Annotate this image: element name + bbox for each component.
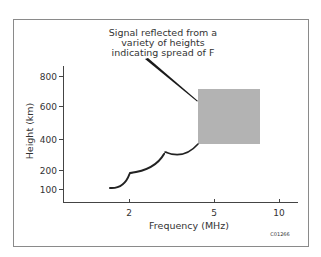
y-tick-800: 800 (40, 72, 57, 82)
leader-line (145, 58, 198, 102)
y-tick-100: 100 (40, 185, 57, 195)
ionogram-trace (110, 144, 198, 188)
y-axis-label: Height (km) (24, 103, 35, 160)
y-tick-200: 200 (40, 166, 57, 176)
x-tick-labels: 2 5 10 (126, 208, 285, 218)
ionogram-figure: Signal reflected from a variety of heigh… (0, 0, 321, 257)
y-tick-600: 600 (40, 102, 57, 112)
trace-segment-f2 (165, 144, 198, 155)
annotation-line-3: indicating spread of F (112, 47, 215, 58)
spread-f-region (198, 89, 260, 144)
y-tick-labels: 800 600 400 200 100 (40, 72, 57, 195)
y-ticks (59, 77, 63, 190)
trace-segment-e (110, 174, 130, 188)
x-tick-2: 2 (126, 208, 132, 218)
x-tick-5: 5 (211, 208, 217, 218)
y-tick-400: 400 (40, 135, 57, 145)
x-tick-10: 10 (273, 208, 285, 218)
trace-segment-f1 (130, 154, 164, 173)
x-axis-label: Frequency (MHz) (149, 220, 229, 231)
figure-code: C01266 (270, 231, 289, 237)
annotation: Signal reflected from a variety of heigh… (109, 27, 217, 58)
